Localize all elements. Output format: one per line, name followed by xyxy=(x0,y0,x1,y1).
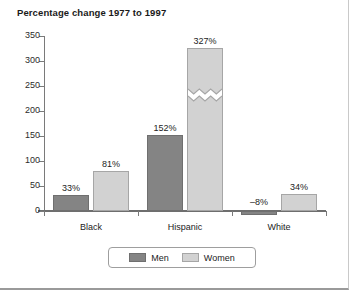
x-tick-mark xyxy=(138,211,139,216)
legend-entry-women: Women xyxy=(182,253,235,263)
y-tick-label: 0 xyxy=(35,205,40,215)
chart-title: Percentage change 1977 to 1997 xyxy=(17,7,166,18)
y-tick-label: 150 xyxy=(25,130,40,140)
bar-black-women xyxy=(93,171,129,212)
x-tick-mark xyxy=(44,211,45,216)
category-label-hispanic: Hispanic xyxy=(138,222,232,232)
bar-white-men xyxy=(241,211,277,215)
bar-value-label-black-women: 81% xyxy=(85,159,137,169)
legend-label-men: Men xyxy=(151,253,169,263)
legend-entry-men: Men xyxy=(129,253,169,263)
bar-value-label-hispanic-men: 152% xyxy=(139,123,191,133)
bar-white-women xyxy=(281,194,317,211)
bar-value-label-white-women: 34% xyxy=(273,182,325,192)
x-tick-mark xyxy=(326,211,327,216)
axis-break-zigzag xyxy=(188,87,222,102)
category-label-white: White xyxy=(232,222,326,232)
bar-black-men xyxy=(53,195,89,212)
bar-value-label-hispanic-women: 327% xyxy=(179,36,231,46)
bar-value-label-black-men: 33% xyxy=(45,183,97,193)
legend-swatch-women xyxy=(182,253,199,262)
y-tick-label: 100 xyxy=(25,155,40,165)
y-tick-label: 350 xyxy=(25,30,40,40)
plot-area: 050100150200250300350 33%81%152%327%–8%3… xyxy=(44,36,326,211)
legend-swatch-men xyxy=(129,253,146,262)
legend-label-women: Women xyxy=(204,253,235,263)
y-tick-label: 250 xyxy=(25,80,40,90)
y-tick-label: 200 xyxy=(25,105,40,115)
bar-value-label-white-men: –8% xyxy=(233,197,285,207)
chart-legend: Men Women xyxy=(108,247,256,268)
chart-figure: Percentage change 1977 to 1997 050100150… xyxy=(0,0,349,290)
x-tick-mark xyxy=(232,211,233,216)
bar-hispanic-women xyxy=(187,48,223,212)
y-tick-label: 300 xyxy=(25,55,40,65)
y-tick-label: 50 xyxy=(30,180,40,190)
category-label-black: Black xyxy=(44,222,138,232)
bar-hispanic-men xyxy=(147,135,183,211)
